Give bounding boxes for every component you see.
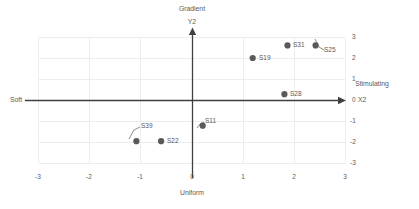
x-tick-2: 2 — [292, 174, 296, 181]
x-axis-anchor-stimulating: Stimulating — [355, 81, 389, 88]
y-axis-symbol: Y2 — [188, 19, 196, 26]
x-tick-minus3: -3 — [35, 174, 41, 181]
x-tick-zero: 0 — [190, 174, 194, 181]
data-point-s22 — [158, 138, 164, 144]
y-tick-minus3: -3 — [350, 160, 356, 167]
data-point-s31 — [284, 42, 290, 48]
y-tick-minus1: -1 — [350, 118, 356, 125]
y-tick-1: 1 — [352, 76, 356, 83]
y-tick-minus2: -2 — [350, 139, 356, 146]
y-tick-zero: 0 — [352, 97, 356, 104]
y-tick-2: 2 — [352, 55, 356, 62]
y-tick-3: 3 — [352, 34, 356, 41]
data-point-s28 — [281, 91, 287, 97]
data-point-s25 — [313, 42, 319, 48]
point-label-s28: S28 — [290, 91, 302, 98]
x-tick-1: 1 — [241, 174, 245, 181]
scatter-chart: Gradient Y2 Uniform X2 Soft Stimulating … — [0, 0, 419, 209]
x-axis-symbol: X2 — [358, 97, 366, 104]
x-axis — [25, 97, 346, 104]
data-point-s39 — [133, 138, 139, 144]
point-label-s31: S31 — [293, 42, 305, 49]
point-label-s25: S25 — [324, 47, 336, 54]
point-label-s19: S19 — [259, 55, 271, 62]
chart-canvas — [0, 0, 419, 209]
x-tick-3: 3 — [343, 174, 347, 181]
point-label-s11: S11 — [205, 118, 216, 125]
point-label-s22: S22 — [167, 138, 179, 145]
x-tick-minus1: -1 — [137, 174, 143, 181]
data-point-s19 — [250, 55, 256, 61]
y-axis — [189, 28, 196, 179]
x-axis-anchor-soft: Soft — [10, 97, 22, 104]
x-axis-title-uniform: Uniform — [180, 190, 204, 197]
x-tick-minus2: -2 — [86, 174, 92, 181]
y-axis-title-gradient: Gradient — [179, 6, 205, 13]
point-label-s39: S39 — [141, 123, 153, 130]
